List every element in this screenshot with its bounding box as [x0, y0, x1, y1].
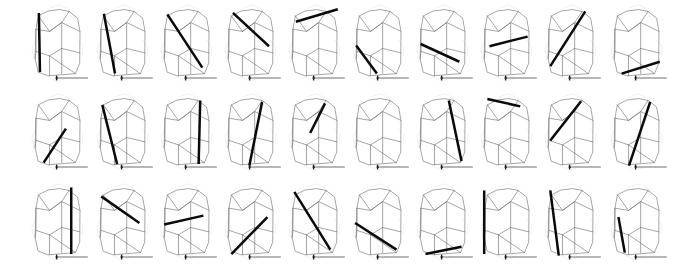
- grain-panel-p24: [221, 181, 286, 269]
- grain-facet-edges: [614, 190, 659, 254]
- grain-outline: [614, 99, 659, 165]
- marked-line-segment: [629, 102, 650, 166]
- grain-panel-p22: [93, 181, 158, 269]
- grain-panel-p9: [541, 2, 606, 90]
- grain-facet-edges: [35, 190, 80, 254]
- grain-panel-p21: [28, 181, 93, 269]
- grain-outline: [100, 99, 145, 165]
- grain-outline: [484, 189, 529, 255]
- grain-panel-p23: [157, 181, 222, 269]
- grain-facet-edges: [420, 11, 465, 75]
- grain-panel-p20: [607, 91, 672, 179]
- grain-outline: [164, 99, 209, 165]
- marked-line-segment: [101, 196, 139, 223]
- grain-facet-edges: [100, 100, 145, 164]
- grain-outline: [420, 99, 465, 165]
- grain-panel-p26: [349, 181, 414, 269]
- marked-line-segment: [550, 101, 581, 140]
- marked-line-segment: [294, 192, 330, 250]
- grain-facet-edges: [484, 100, 529, 164]
- grain-facet-edges: [484, 190, 529, 254]
- grain-facet-edges: [356, 190, 401, 254]
- grain-panel-p15: [285, 91, 350, 179]
- grain-panel-p10: [607, 2, 672, 90]
- grain-facet-edges: [614, 100, 659, 164]
- marked-line-segment: [44, 129, 66, 163]
- grain-facet-edges: [35, 11, 80, 75]
- grain-outline: [548, 99, 593, 165]
- grain-panel-p3: [157, 2, 222, 90]
- grain-panel-p2: [93, 2, 158, 90]
- grain-panel-p4: [221, 2, 286, 90]
- grain-facet-edges: [100, 11, 145, 75]
- grain-facet-edges: [548, 11, 593, 75]
- grain-panel-p11: [28, 91, 93, 179]
- grain-panel-p19: [541, 91, 606, 179]
- grain-facet-edges: [35, 100, 80, 164]
- grain-outline: [35, 99, 80, 165]
- marked-line-segment: [421, 44, 460, 62]
- marked-line-segment: [233, 13, 269, 46]
- grain-facet-edges: [614, 11, 659, 75]
- grain-outline: [484, 99, 529, 165]
- grain-outline: [292, 99, 337, 165]
- marked-line-segment: [550, 190, 558, 255]
- grain-outline: [356, 99, 401, 165]
- grain-panel-p13: [157, 91, 222, 179]
- marked-line-segment: [249, 102, 262, 166]
- figure-panel-grid: [0, 0, 684, 273]
- marked-line-segment: [449, 100, 462, 161]
- grain-panel-p6: [349, 2, 414, 90]
- marked-line-segment: [310, 103, 325, 133]
- marked-line-segment: [550, 11, 585, 66]
- grain-outline: [614, 189, 659, 255]
- grain-panel-p5: [285, 2, 350, 90]
- grain-outline: [356, 189, 401, 255]
- grain-outline: [420, 10, 465, 76]
- grain-outline: [35, 189, 80, 255]
- marked-line-segment: [164, 216, 203, 225]
- grain-facet-edges: [356, 11, 401, 75]
- marked-line-segment: [167, 14, 202, 67]
- grain-panel-p16: [349, 91, 414, 179]
- grain-panel-p8: [477, 2, 542, 90]
- grain-panel-p27: [413, 181, 478, 269]
- grain-panel-p18: [477, 91, 542, 179]
- grain-panel-p1: [28, 2, 93, 90]
- marked-line-segment: [489, 37, 527, 47]
- grain-outline: [548, 10, 593, 76]
- grain-facet-edges: [484, 11, 529, 75]
- marked-line-segment: [356, 45, 377, 73]
- marked-line-segment: [199, 100, 201, 164]
- marked-line-segment: [355, 223, 396, 250]
- grain-panel-p17: [413, 91, 478, 179]
- grain-outline: [356, 10, 401, 76]
- grain-panel-p12: [93, 91, 158, 179]
- grain-panel-p28: [477, 181, 542, 269]
- grain-outline: [420, 189, 465, 255]
- grain-panel-p25: [285, 181, 350, 269]
- grain-outline: [100, 10, 145, 76]
- grain-outline: [614, 10, 659, 76]
- grain-facet-edges: [356, 100, 401, 164]
- grain-outline: [228, 189, 273, 255]
- grain-outline: [35, 10, 80, 76]
- marked-line-segment: [39, 13, 40, 72]
- grain-panel-p29: [541, 181, 606, 269]
- grain-facet-edges: [420, 100, 465, 164]
- grain-panel-p7: [413, 2, 478, 90]
- grain-facet-edges: [420, 190, 465, 254]
- grain-panel-p14: [221, 91, 286, 179]
- grain-panel-p30: [607, 181, 672, 269]
- grain-outline: [292, 10, 337, 76]
- marked-line-segment: [618, 217, 624, 253]
- grain-facet-edges: [228, 190, 273, 254]
- grain-facet-edges: [292, 100, 337, 164]
- marked-line-segment: [104, 14, 115, 74]
- grain-facet-edges: [164, 100, 209, 164]
